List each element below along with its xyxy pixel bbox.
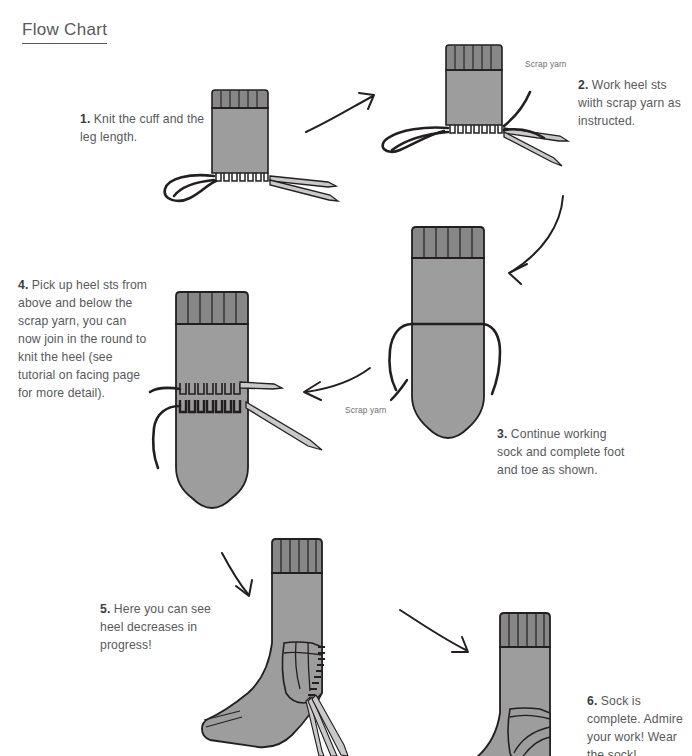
step-4-number: 4. (18, 278, 28, 292)
sock-tube-2 (446, 45, 502, 125)
flow-chart-page: Flow Chart (0, 0, 692, 756)
heel-panel (282, 642, 322, 703)
step-2-illustration (378, 30, 578, 175)
step-6-number: 6. (587, 694, 597, 708)
step-4-illustration (150, 282, 360, 522)
step-1-text: 1. Knit the cuff and the leg length. (80, 110, 210, 146)
sock-tube-1 (212, 90, 268, 173)
step-4-body: Pick up heel sts from above and below th… (18, 278, 147, 400)
step-3-body: Continue working sock and complete foot … (497, 427, 625, 477)
step-5-number: 5. (100, 602, 110, 616)
step-5-body: Here you can see heel decreases in progr… (100, 602, 211, 652)
step-3-illustration (390, 218, 560, 448)
live-stitches-1 (216, 173, 268, 181)
sock-tube-3 (412, 227, 484, 438)
step-5-text: 5. Here you can see heel decreases in pr… (100, 600, 225, 654)
step-1-number: 1. (80, 112, 90, 126)
sock-6 (432, 613, 550, 756)
step-6-body: Sock is complete. Admire your work! Wear… (587, 694, 683, 756)
page-title: Flow Chart (22, 21, 107, 44)
step-6-illustration (428, 605, 603, 756)
step-4-text: 4. Pick up heel sts from above and below… (18, 276, 148, 402)
knitting-needle-upper (240, 382, 282, 389)
scrap-yarn-loop-1 (165, 175, 216, 201)
step-5-illustration (200, 525, 430, 756)
step-1-body: Knit the cuff and the leg length. (80, 112, 204, 144)
step-3-text: 3. Continue working sock and complete fo… (497, 425, 632, 479)
knitting-needle-lower (246, 402, 322, 450)
scrap-yarn-label-1: Scrap yarn (525, 59, 567, 69)
scrap-yarn-pointer-3 (385, 378, 415, 408)
step-3-number: 3. (497, 427, 507, 441)
step-2-number: 2. (578, 78, 588, 92)
step-2-body: Work heel sts wiith scrap yarn as instru… (578, 78, 681, 128)
live-stitches-2 (450, 125, 502, 133)
knitting-needles-5 (306, 695, 348, 756)
step-6-text: 6. Sock is complete. Admire your work! W… (587, 692, 692, 756)
step-2-text: 2. Work heel sts wiith scrap yarn as ins… (578, 76, 690, 130)
knitting-needles-1 (270, 176, 338, 201)
